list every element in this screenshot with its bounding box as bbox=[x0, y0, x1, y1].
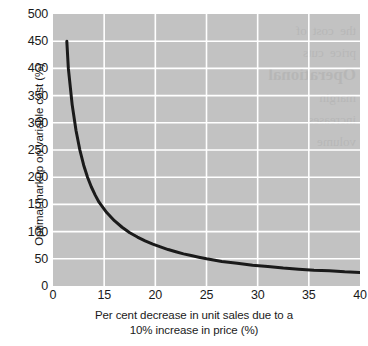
x-axis-tick-label: 20 bbox=[135, 288, 175, 302]
x-axis-tick-label: 35 bbox=[289, 288, 329, 302]
x-axis-tick-label: 40 bbox=[340, 288, 368, 302]
x-axis-tick-label: 30 bbox=[238, 288, 278, 302]
y-axis-tick-label: 50 bbox=[12, 253, 48, 265]
plot-svg bbox=[53, 14, 360, 286]
y-axis-tick-label: 400 bbox=[12, 62, 48, 74]
x-axis-tick-label: 25 bbox=[187, 288, 227, 302]
y-axis-tick-label: 200 bbox=[12, 171, 48, 183]
y-axis-tick-label: 250 bbox=[12, 144, 48, 156]
chart-figure: Optimal markup on variable cost (%) 0501… bbox=[0, 0, 368, 346]
x-axis-title-line1: Per cent decrease in unit sales due to a bbox=[34, 308, 354, 323]
y-axis-tick-label: 100 bbox=[12, 226, 48, 238]
data-series-lines bbox=[67, 41, 360, 272]
y-axis-tick-labels: 050100150200250300350400450500 bbox=[12, 14, 48, 286]
x-axis-tick-label: 0 bbox=[33, 288, 73, 302]
y-axis-tick-label: 300 bbox=[12, 117, 48, 129]
x-axis-tick-label: 15 bbox=[84, 288, 124, 302]
y-axis-tick-label: 350 bbox=[12, 90, 48, 102]
plot-area: the cost of price cuts Operational margi… bbox=[53, 14, 360, 286]
data-series-line bbox=[67, 41, 360, 272]
x-axis-title: Per cent decrease in unit sales due to a… bbox=[34, 308, 354, 338]
grid-lines bbox=[53, 14, 360, 286]
x-axis-title-line2: 10% increase in price (%) bbox=[34, 323, 354, 338]
y-axis-tick-label: 150 bbox=[12, 198, 48, 210]
x-axis-tick-labels: 0152025303540 bbox=[53, 288, 360, 306]
y-axis-tick-label: 450 bbox=[12, 35, 48, 47]
y-axis-tick-label: 500 bbox=[12, 8, 48, 20]
